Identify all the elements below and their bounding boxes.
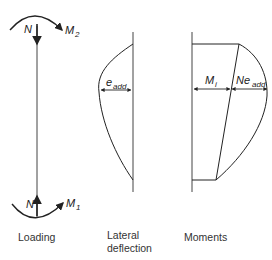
- bottom-moment-sub: 1: [76, 203, 80, 212]
- additional-moment-sub: add: [252, 80, 266, 89]
- moments-caption: Moments: [184, 231, 227, 243]
- deflection-panel: e add: [99, 32, 133, 192]
- deflection-curve: [99, 44, 133, 180]
- initial-moment-label: M: [205, 74, 215, 86]
- top-moment-sub: 2: [74, 30, 80, 39]
- additional-moment-curve: [216, 44, 267, 180]
- deflection-caption-line2: deflection: [107, 242, 152, 254]
- deflection-sub: add: [113, 82, 127, 91]
- initial-moment-sub: i: [215, 80, 217, 89]
- top-moment-arc-icon: [10, 16, 62, 30]
- deflection-label: e: [106, 76, 112, 88]
- deflection-caption-line1: Lateral: [107, 229, 139, 241]
- bottom-force-label: N: [26, 198, 34, 210]
- initial-moment-line: [216, 44, 239, 180]
- loading-caption: Loading: [18, 231, 55, 243]
- top-moment-label: M: [65, 24, 75, 36]
- top-force-label: N: [24, 23, 32, 35]
- moments-panel: M i Ne add: [192, 32, 267, 192]
- column-loading-diagram: N M 2 N M 1 e add M i Ne: [0, 0, 272, 260]
- bottom-moment-label: M: [66, 197, 76, 209]
- additional-moment-label: Ne: [236, 74, 250, 86]
- loading-panel: N M 2 N M 1: [10, 16, 80, 218]
